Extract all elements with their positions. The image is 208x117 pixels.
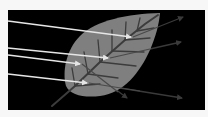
leaf-light-diagram (0, 0, 208, 117)
